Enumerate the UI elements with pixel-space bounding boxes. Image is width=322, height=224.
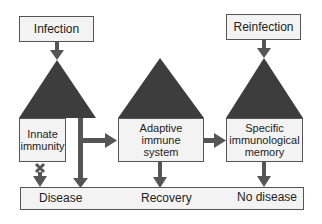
arrow-to-memory: [204, 133, 226, 148]
reinfection-box: Reinfection: [226, 14, 301, 40]
arrow-to-no-disease: [257, 162, 271, 187]
memory-box: Specific immunological memory: [226, 118, 303, 162]
outcome-recovery: Recovery: [141, 192, 192, 204]
arrow-innate-to-disease: [73, 118, 88, 188]
triangle-memory: [226, 58, 303, 118]
innate-immunity-box: Innate immunity: [19, 118, 66, 162]
triangle-innate: [19, 60, 96, 118]
arrow-to-adaptive: [83, 133, 117, 148]
blocked-arrow-icon: [33, 164, 47, 187]
outcome-no-disease: No disease: [237, 191, 297, 203]
arrow-infection: [50, 42, 64, 60]
outcome-bar: Disease Recovery No disease: [20, 187, 304, 210]
arrow-reinfection: [257, 40, 271, 58]
adaptive-immune-box: Adaptive immune system: [118, 118, 204, 162]
triangle-adaptive: [118, 58, 204, 118]
infection-box: Infection: [19, 16, 94, 42]
outcome-disease: Disease: [39, 192, 82, 204]
arrow-to-recovery: [153, 162, 167, 188]
